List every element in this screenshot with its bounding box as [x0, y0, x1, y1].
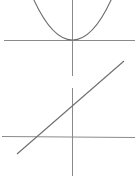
- parabola-chart: [4, 0, 135, 76]
- line-x-axis: [2, 137, 135, 138]
- charts-canvas: [0, 0, 137, 184]
- linear-function-line: [17, 61, 124, 154]
- line-chart: [2, 61, 135, 176]
- figure: [0, 0, 137, 184]
